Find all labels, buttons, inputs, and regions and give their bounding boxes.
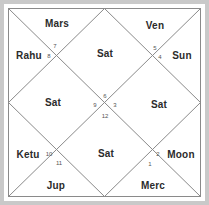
house-11-planets: Jup bbox=[47, 181, 65, 191]
house-1-number: 1 bbox=[148, 161, 151, 167]
house-5-number: 5 bbox=[153, 45, 156, 51]
house-5-planets: Ven bbox=[146, 21, 164, 31]
house-4-planets: Sun bbox=[172, 51, 192, 61]
vedic-birth-chart: Merc 1 Moon 2 Sat 3 Sun 4 Ven 5 Sat 6 Ma… bbox=[0, 0, 209, 205]
house-9-planets: Sat bbox=[45, 98, 61, 108]
house-2-number: 2 bbox=[156, 151, 159, 157]
house-4-number: 4 bbox=[158, 54, 161, 60]
house-6-number: 6 bbox=[103, 93, 106, 99]
house-2-planets: Moon bbox=[167, 150, 194, 160]
house-8-planets: Rahu bbox=[16, 51, 42, 61]
house-12-planets: Sat bbox=[98, 149, 114, 159]
house-10-planets: Ketu bbox=[16, 150, 39, 160]
house-6-planets: Sat bbox=[97, 49, 113, 59]
house-10-number: 10 bbox=[46, 151, 53, 157]
house-1-planets: Merc bbox=[141, 181, 165, 191]
house-7-number: 7 bbox=[53, 43, 56, 49]
house-9-number: 9 bbox=[93, 102, 96, 108]
house-11-number: 11 bbox=[56, 160, 62, 166]
house-7-planets: Mars bbox=[45, 19, 69, 29]
house-3-number: 3 bbox=[113, 102, 116, 108]
chart-grid-lines bbox=[0, 0, 209, 205]
house-12-number: 12 bbox=[102, 113, 109, 119]
house-3-planets: Sat bbox=[151, 100, 167, 110]
house-8-number: 8 bbox=[47, 53, 50, 59]
